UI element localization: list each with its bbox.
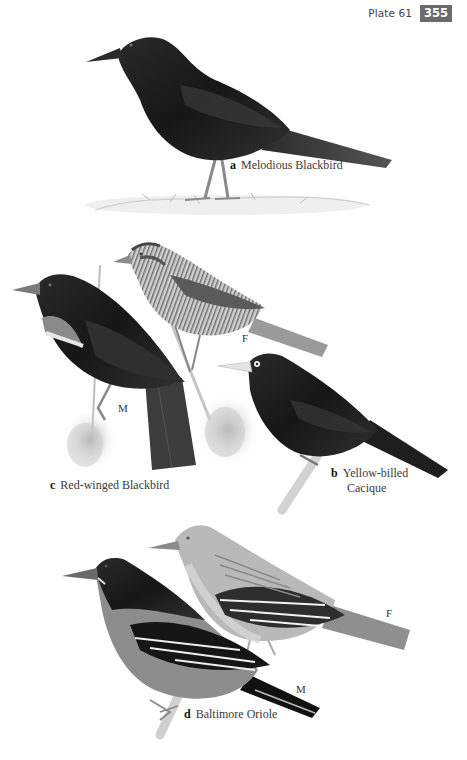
caption-baltimore-oriole: dBaltimore Oriole: [184, 707, 277, 721]
species-letter: c: [50, 478, 55, 492]
caption-melodious-blackbird: aMelodious Blackbird: [230, 158, 343, 172]
sex-label-oriole-female: F: [386, 607, 392, 619]
melodious-blackbird-illustration: [85, 37, 392, 215]
plate-illustrations: [0, 0, 467, 760]
caption-yellow-billed-cacique: bYellow-billed Cacique: [331, 466, 408, 496]
species-name: Red-winged Blackbird: [60, 478, 169, 492]
species-name: Baltimore Oriole: [196, 707, 278, 721]
caption-red-winged-blackbird: cRed-winged Blackbird: [50, 478, 169, 492]
species-letter: d: [184, 707, 191, 721]
species-name-line2: Cacique: [331, 481, 408, 496]
species-letter: a: [230, 158, 236, 172]
sex-label-red-winged-male: M: [118, 402, 128, 414]
species-name: Melodious Blackbird: [241, 158, 343, 172]
sex-label-oriole-male: M: [296, 683, 306, 695]
species-letter: b: [331, 466, 338, 480]
sex-label-red-winged-female: F: [242, 332, 248, 344]
species-name-line1: Yellow-billed: [343, 466, 408, 480]
